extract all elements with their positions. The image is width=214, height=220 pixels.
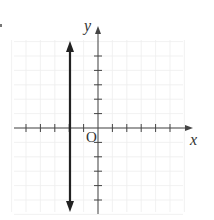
vertical-line-x-neg2 [66, 41, 74, 212]
x-axis-label: x [190, 132, 197, 148]
y-axis-arrow-icon [95, 26, 101, 34]
coordinate-plane [0, 0, 214, 220]
origin-label: O [86, 130, 97, 145]
y-axis-label: y [84, 18, 91, 34]
line-arrow-up-icon [66, 41, 74, 52]
line-arrow-down-icon [66, 201, 74, 212]
